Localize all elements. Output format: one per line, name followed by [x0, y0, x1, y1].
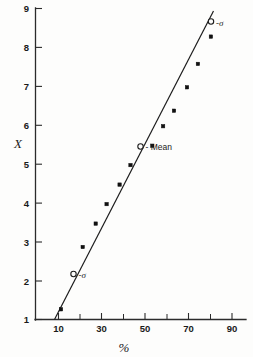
x-tick-label-50: 50 [140, 323, 151, 334]
y-tick-label-5: 5 [24, 159, 30, 170]
data-point [196, 62, 199, 65]
data-point [172, 109, 175, 112]
open-circle-marker [208, 19, 213, 24]
data-point [81, 245, 84, 248]
annotation-lower-sigma-label: -σ [79, 270, 87, 280]
open-circle-marker [71, 271, 76, 276]
y-tick-label-3: 3 [24, 237, 29, 248]
data-point [185, 86, 188, 89]
y-tick-label-7: 7 [24, 81, 29, 92]
axes [35, 8, 246, 320]
data-point [105, 202, 108, 205]
annotation-upper-sigma-label: -σ [216, 18, 224, 28]
x-axis-ticks-major [59, 313, 233, 320]
annotation-mean-label: - Mean [146, 142, 173, 152]
y-axis-title: X [13, 136, 23, 151]
data-point [118, 183, 121, 186]
y-axis-tick-labels: 9 8 7 6 5 4 3 2 1 [24, 3, 30, 325]
y-tick-label-6: 6 [24, 120, 29, 131]
probability-plot-figure: 9 8 7 6 5 4 3 2 1 X 10 [0, 0, 253, 357]
data-point [59, 308, 62, 311]
data-point [161, 125, 164, 128]
y-tick-label-8: 8 [24, 42, 29, 53]
annotation-mean: - Mean [138, 142, 172, 152]
x-tick-label-10: 10 [53, 323, 64, 334]
y-tick-label-2: 2 [24, 276, 29, 287]
data-point [209, 35, 212, 38]
annotation-lower-sigma: -σ [71, 270, 87, 280]
chart-canvas: 9 8 7 6 5 4 3 2 1 X 10 [0, 0, 253, 357]
y-tick-label-1: 1 [24, 314, 30, 325]
y-tick-label-4: 4 [24, 198, 30, 209]
y-tick-label-9: 9 [24, 3, 29, 14]
y-axis-ticks [36, 9, 43, 320]
x-tick-label-90: 90 [227, 323, 238, 334]
data-point [129, 163, 132, 166]
open-circle-marker [138, 144, 143, 149]
x-tick-label-30: 30 [96, 323, 107, 334]
annotation-upper-sigma: -σ [208, 18, 224, 28]
data-point [94, 222, 97, 225]
x-axis-tick-labels: 10 30 50 70 90 [53, 323, 237, 334]
x-tick-label-70: 70 [183, 323, 194, 334]
x-axis-title: % [119, 340, 130, 355]
